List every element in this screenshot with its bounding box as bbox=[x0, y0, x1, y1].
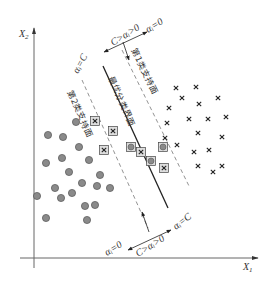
class1-point bbox=[216, 96, 220, 100]
class2-support-vector bbox=[159, 143, 168, 152]
class2-point bbox=[85, 156, 92, 163]
class2-point bbox=[75, 143, 82, 150]
class1-support-vector bbox=[160, 164, 169, 173]
hyperplanes bbox=[82, 50, 190, 228]
class2-point bbox=[96, 171, 103, 178]
class2-plane-label: 第2类支持面 bbox=[65, 89, 95, 139]
optimal-plane-label: 最优分类界面 bbox=[106, 75, 137, 128]
class2-point bbox=[42, 159, 49, 166]
class1-point bbox=[196, 164, 200, 168]
class2-point bbox=[72, 118, 79, 125]
class1-point bbox=[220, 164, 224, 168]
class2-point bbox=[78, 179, 85, 186]
class2-point bbox=[33, 192, 40, 199]
class2-point bbox=[106, 184, 113, 191]
class2-support-vector bbox=[127, 143, 136, 152]
class1-points bbox=[163, 85, 228, 174]
class2-point bbox=[68, 189, 75, 196]
class1-plane-label: 第1类支持面 bbox=[129, 46, 160, 96]
class1-point bbox=[180, 96, 184, 100]
class1-point bbox=[206, 117, 210, 121]
class2-point bbox=[57, 194, 64, 201]
class1-point bbox=[174, 86, 178, 90]
alpha-bottom-left: αᵢ=0 bbox=[102, 239, 124, 258]
class2-support-vector bbox=[147, 157, 156, 166]
class1-point bbox=[224, 115, 228, 119]
class1-point bbox=[197, 102, 201, 106]
class1-point bbox=[175, 143, 179, 147]
class1-point bbox=[165, 121, 169, 125]
y-axis-label: X2 bbox=[18, 28, 29, 41]
class1-point bbox=[192, 150, 196, 154]
class2-point bbox=[81, 202, 88, 209]
class1-support-vector bbox=[100, 146, 109, 155]
alpha-top-right: αᵢ=0 bbox=[143, 16, 165, 35]
class2-point bbox=[65, 168, 72, 175]
class2-point bbox=[93, 182, 100, 189]
class1-support-vector bbox=[91, 117, 100, 126]
alpha-top-left: αᵢ=C bbox=[70, 52, 89, 75]
class1-point bbox=[207, 148, 211, 152]
alpha-bottom-middle: C>αᵢ>0 bbox=[133, 232, 166, 258]
alpha-top-middle: C>αᵢ>0 bbox=[108, 21, 141, 47]
bottom-pointer-arrow bbox=[142, 212, 149, 232]
alpha-bottom-right: αᵢ=C bbox=[170, 210, 193, 231]
class1-point bbox=[187, 117, 191, 121]
class2-point bbox=[59, 133, 66, 140]
class1-point bbox=[194, 85, 198, 89]
class1-point bbox=[196, 131, 200, 135]
class2-point bbox=[58, 154, 65, 161]
class1-support-vector bbox=[137, 148, 146, 157]
class1-point bbox=[220, 135, 224, 139]
class1-support-vector bbox=[109, 127, 118, 136]
class1-point bbox=[211, 170, 215, 174]
class2-point bbox=[51, 184, 58, 191]
class2-point bbox=[83, 216, 90, 223]
class2-point bbox=[91, 201, 98, 208]
class1-point bbox=[163, 136, 167, 140]
class2-point bbox=[44, 131, 51, 138]
class2-points bbox=[33, 118, 113, 223]
class2-support-vectors bbox=[127, 143, 168, 166]
svm-diagram: X2 X1 αᵢ=0 C>αᵢ>0 αᵢ=C αᵢ=C C>αᵢ>0 αᵢ=0 … bbox=[0, 0, 274, 290]
x-axis-label: X1 bbox=[242, 261, 253, 274]
class1-point bbox=[167, 106, 171, 110]
class2-point bbox=[42, 214, 49, 221]
